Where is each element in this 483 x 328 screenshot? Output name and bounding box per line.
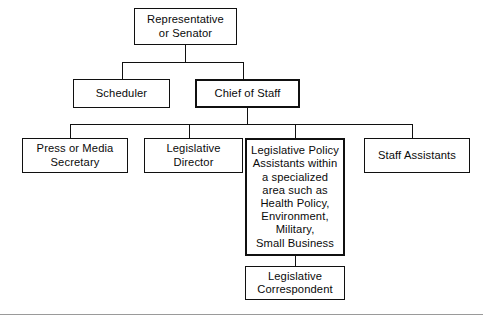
node-press-or-media-secretary[interactable]: Press or Media Secretary	[22, 138, 128, 173]
node-legislative-director[interactable]: Legislative Director	[144, 138, 243, 173]
connector-level3-bus	[70, 124, 413, 125]
node-legislative-policy-assistants[interactable]: Legislative Policy Assistants within a s…	[245, 138, 345, 256]
node-scheduler[interactable]: Scheduler	[73, 79, 170, 108]
connector-chief-of-staff-to-bus	[247, 108, 248, 124]
connector-level2-bus	[122, 62, 244, 63]
connector-bus-to-staff-assistants	[412, 124, 413, 138]
connector-representative-to-bus	[185, 45, 186, 63]
connector-lpa-to-legislative-correspondent	[295, 256, 296, 266]
footer-divider	[0, 314, 483, 315]
connector-bus-to-scheduler	[122, 62, 123, 79]
node-legislative-correspondent[interactable]: Legislative Correspondent	[245, 266, 345, 300]
node-representative-or-senator[interactable]: Representative or Senator	[134, 8, 237, 45]
connector-bus-to-legislative-policy-assistants	[295, 124, 296, 138]
connector-bus-to-legislative-director	[189, 124, 190, 138]
connector-bus-to-chief-of-staff	[243, 62, 244, 79]
connector-bus-to-press-secretary	[70, 124, 71, 138]
org-chart-canvas: Representative or Senator Scheduler Chie…	[0, 0, 483, 328]
node-chief-of-staff[interactable]: Chief of Staff	[195, 79, 300, 108]
node-staff-assistants[interactable]: Staff Assistants	[364, 138, 470, 173]
